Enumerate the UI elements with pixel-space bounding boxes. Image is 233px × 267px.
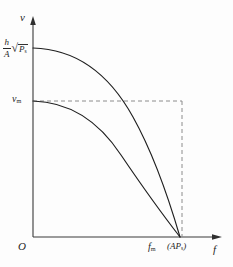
fraction-numerator: h	[4, 38, 11, 47]
dashed-guides	[33, 101, 182, 237]
radicand-subscript: s	[25, 48, 27, 54]
y-tick-label-vm: vm	[12, 94, 21, 105]
y-tick-label-h-over-A-sqrt-Ps: h A √ Ps	[3, 38, 28, 59]
lower-curve	[33, 101, 180, 237]
radical-sign-icon: √	[12, 43, 19, 53]
figure-canvas: v f O h A √ Ps vm fm (APs)	[0, 0, 233, 267]
vm-subscript: m	[16, 97, 21, 104]
fraction-denominator: A	[3, 50, 11, 59]
y-axis	[30, 16, 36, 237]
origin-label: O	[18, 241, 26, 252]
x-axis	[33, 234, 222, 240]
plot-svg	[0, 0, 233, 267]
fm-subscript: m	[151, 245, 156, 252]
radicand: Ps	[18, 44, 28, 55]
x-tick-label-fm: fm	[148, 242, 156, 253]
radical-Ps: √ Ps	[12, 43, 28, 55]
fraction-h-over-A: h A	[3, 38, 11, 59]
aps-close-paren: )	[183, 241, 186, 251]
y-axis-label: v	[20, 12, 25, 23]
x-tick-label-aps: (APs)	[167, 242, 186, 252]
x-axis-label: f	[213, 244, 216, 255]
